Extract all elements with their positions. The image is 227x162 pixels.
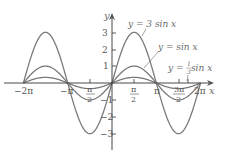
x-tick-label-3pi2: 3π 2 (173, 85, 185, 104)
y-tick-label-m2: −2 (100, 112, 113, 122)
x-tick-label-pi: π (154, 86, 160, 96)
x-tick-label-pi2: π 2 (130, 85, 139, 104)
sine-amplitude-chart: y x 3 2 1 −1 −2 −3 −2π −π π 2 π 2 π 3π 2… (0, 0, 227, 162)
annotation-sinx: y = sin x (157, 42, 198, 52)
y-axis-label: y (103, 10, 110, 21)
y-tick-label-1: 1 (103, 61, 109, 71)
x-ticks (90, 79, 188, 83)
y-tick-label-m1: −1 (100, 95, 113, 105)
y-tick-label-3: 3 (102, 28, 108, 38)
svg-text:2: 2 (131, 95, 136, 104)
annotation-3sinx: y = 3 sin x (127, 19, 176, 29)
svg-text:2: 2 (176, 95, 181, 104)
x-tick-label-mpi: −π (60, 86, 74, 96)
svg-text:π: π (131, 85, 136, 94)
x-tick-label-2pi: 2π (194, 86, 206, 96)
svg-text:π: π (87, 85, 92, 94)
svg-text:y =: y = (167, 63, 184, 73)
x-axis-label: x (209, 85, 215, 96)
svg-text:2: 2 (87, 95, 92, 104)
x-tick-label-m2pi: −2π (14, 86, 33, 96)
svg-text:3π: 3π (174, 85, 184, 94)
annotation-3sinx-leader (142, 29, 146, 36)
y-tick-label-m3: −3 (100, 129, 114, 139)
svg-text:sin x: sin x (191, 63, 212, 73)
annotation-third-sinx: y = 1 3 sin x (167, 60, 212, 75)
y-tick-label-2: 2 (102, 45, 108, 55)
